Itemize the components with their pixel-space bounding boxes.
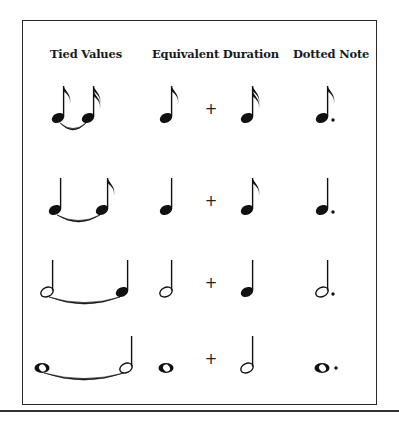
tied-eighth-note-icon — [94, 178, 114, 217]
plus-sign: + — [205, 100, 218, 118]
plus-sign: + — [205, 350, 218, 368]
tied-quarter-note-icon — [47, 178, 63, 217]
augmentation-dot-icon — [331, 292, 334, 295]
tie-icon — [60, 123, 86, 130]
tied-eighth-note-icon — [50, 86, 70, 125]
tie-icon — [44, 373, 124, 380]
equivalent-whole-note-icon — [159, 363, 174, 373]
tied-quarter-note-icon — [114, 260, 130, 299]
equivalent-quarter-note-icon — [158, 178, 174, 217]
dotted-quarter-note-icon — [314, 178, 335, 217]
tied-whole-note-icon — [35, 363, 50, 373]
plus-sign: + — [205, 274, 218, 292]
augmentation-dot-icon — [334, 366, 337, 369]
notation-diagram: ++++ — [0, 0, 399, 424]
tied-sixteenth-note-icon — [80, 86, 100, 125]
dotted-half-note-icon — [314, 260, 335, 299]
dotted-whole-note-icon — [315, 363, 338, 373]
dotted-eighth-note-icon — [314, 86, 335, 125]
tie-icon — [49, 297, 120, 304]
tied-half-note-icon — [39, 260, 55, 299]
tied-half-note-icon — [118, 336, 134, 375]
equivalent-half-note-icon — [239, 336, 255, 375]
augmentation-dot-icon — [331, 210, 334, 213]
equivalent-quarter-note-icon — [239, 260, 255, 299]
equivalent-eighth-note-icon — [158, 86, 178, 125]
equivalent-half-note-icon — [158, 260, 174, 299]
augmentation-dot-icon — [331, 118, 334, 121]
equivalent-eighth-note-icon — [239, 178, 259, 217]
equivalent-sixteenth-note-icon — [239, 86, 259, 125]
plus-sign: + — [205, 192, 218, 210]
tie-icon — [57, 215, 100, 222]
